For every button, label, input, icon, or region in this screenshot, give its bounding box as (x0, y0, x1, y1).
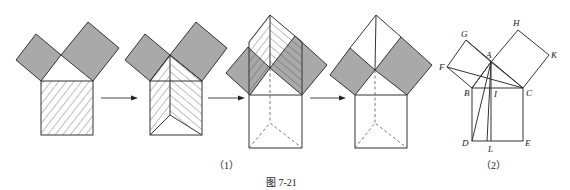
small-leg-square (16, 34, 61, 81)
label-C: C (526, 88, 533, 98)
euclid-figure: A B C D E F G H I K L (438, 18, 558, 154)
step-3-figure (226, 15, 327, 148)
label-G: G (461, 29, 468, 39)
step-2-figure (125, 22, 227, 135)
step-4-figure (330, 15, 432, 148)
arrow-2 (208, 96, 245, 101)
label-D: D (461, 138, 469, 148)
label-K: K (550, 50, 558, 60)
step-1-figure (16, 22, 119, 135)
label-E: E (524, 138, 531, 148)
label-I: I (493, 89, 498, 99)
large-leg-square (375, 37, 432, 95)
label-A: A (485, 50, 492, 60)
figure-caption: 图 7-21 (266, 177, 297, 188)
arrow-1 (101, 96, 138, 101)
large-leg-square (61, 22, 119, 81)
pythagorean-proof-diagram: A B C D E F G H I K L （1） （2） 图 7-21 (0, 0, 570, 190)
arrow-3 (310, 96, 346, 101)
subfigure-2-caption: （2） (481, 160, 506, 171)
hypotenuse-square (41, 81, 93, 135)
label-L: L (487, 144, 493, 154)
label-F: F (438, 62, 445, 72)
label-B: B (464, 88, 470, 98)
label-H: H (512, 18, 520, 28)
small-leg-square (330, 48, 375, 95)
subfigure-1-caption: （1） (214, 160, 239, 171)
